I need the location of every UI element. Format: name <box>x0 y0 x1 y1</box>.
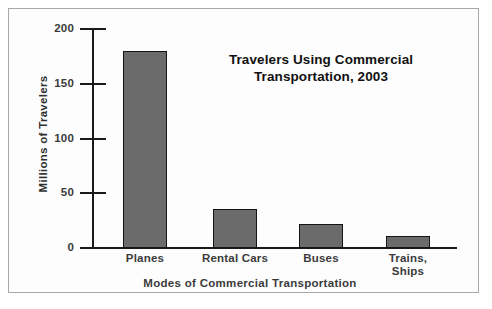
y-tick-label: 0 <box>22 241 74 255</box>
y-tick-label-text: 150 <box>28 77 74 89</box>
chart-figure: 050100150200 PlanesRental CarsBusesTrain… <box>0 0 492 309</box>
x-category-label-line-1: Trains, <box>353 252 463 265</box>
y-tick-label-text: 50 <box>28 186 74 198</box>
x-category-label: Trains,Ships <box>353 252 463 278</box>
y-tick-label-text: 0 <box>28 241 74 253</box>
bar[interactable] <box>123 51 167 248</box>
chart-title: Travelers Using Commercial Transportatio… <box>196 51 446 85</box>
y-tick-label: 200 <box>22 22 74 36</box>
chart-title-line-2: Transportation, 2003 <box>196 68 446 85</box>
y-tick-label-text: 100 <box>28 132 74 144</box>
y-tick-label-text: 200 <box>28 22 74 34</box>
bar-slot <box>123 29 167 248</box>
bar[interactable] <box>299 224 343 248</box>
bar[interactable] <box>213 209 257 248</box>
x-axis-title: Modes of Commercial Transportation <box>120 277 380 289</box>
bar[interactable] <box>386 236 430 248</box>
plot-area: 050100150200 PlanesRental CarsBusesTrain… <box>0 0 492 309</box>
y-axis-title: Millions of Travelers <box>37 54 49 214</box>
chart-title-line-1: Travelers Using Commercial <box>196 51 446 68</box>
